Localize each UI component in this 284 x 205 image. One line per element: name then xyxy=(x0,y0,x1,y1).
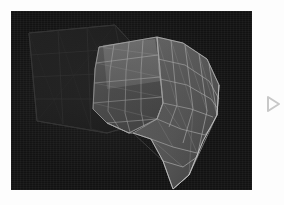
play-triangle-icon xyxy=(265,95,281,113)
viewport-window xyxy=(0,0,284,205)
3d-render-viewport[interactable] xyxy=(11,11,252,190)
play-button[interactable] xyxy=(264,92,282,116)
scene-geometry xyxy=(11,11,252,190)
mesh-highlight xyxy=(103,39,161,89)
